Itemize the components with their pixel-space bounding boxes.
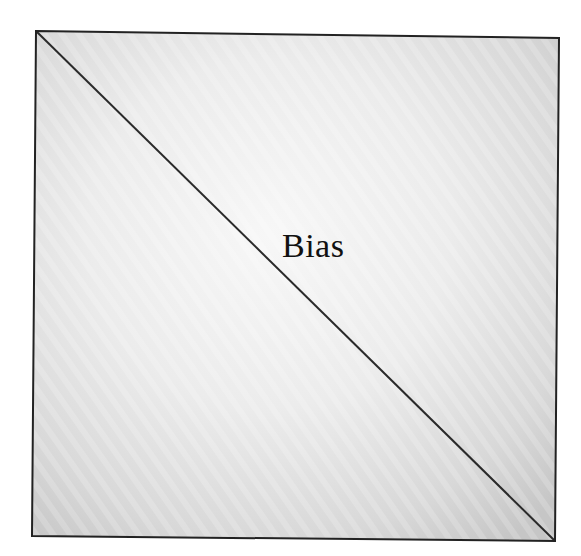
bias-diagram: Bias <box>0 0 581 556</box>
square-diagram-graphic <box>0 0 581 556</box>
bias-label: Bias <box>282 229 344 263</box>
